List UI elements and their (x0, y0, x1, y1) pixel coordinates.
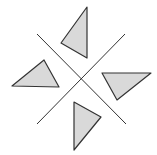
bottom-triangle (74, 102, 101, 150)
left-triangle (12, 60, 59, 87)
top-triangle (61, 7, 87, 58)
rotational-symmetry-figure (0, 0, 157, 155)
right-triangle (102, 73, 151, 100)
